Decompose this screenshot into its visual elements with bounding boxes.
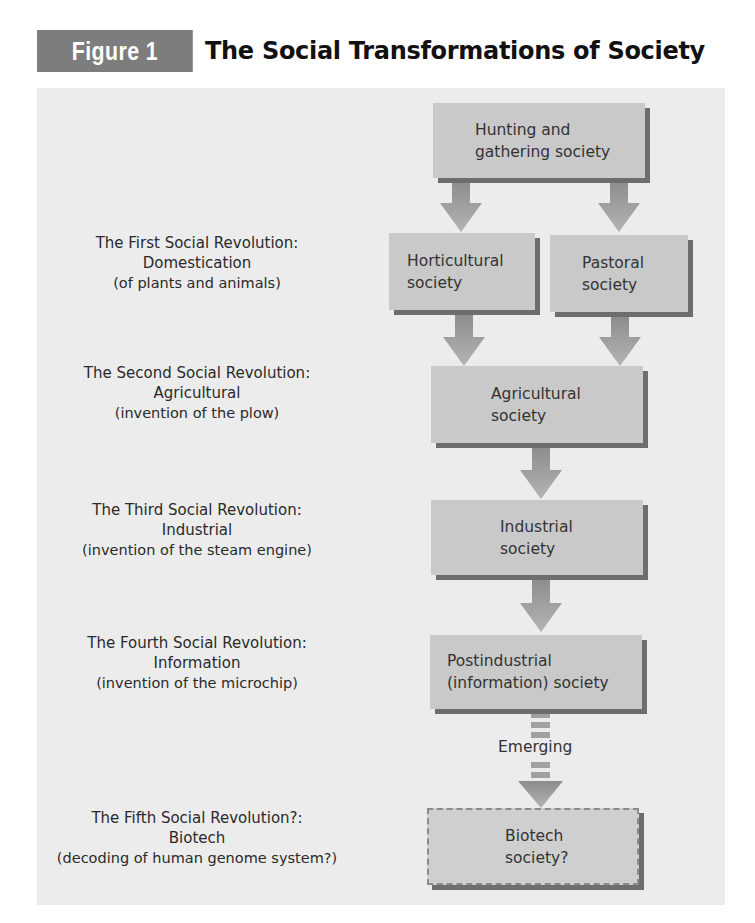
- box-line: Industrial: [500, 516, 643, 538]
- agricultural-society-box: Agricultural society: [431, 366, 643, 443]
- dashed-arrow-icon: [518, 712, 563, 808]
- box-line: society?: [505, 847, 637, 869]
- box-line: (information) society: [447, 672, 642, 694]
- box-line: society: [407, 272, 535, 294]
- arrow-down-icon: [598, 180, 640, 232]
- box-line: Postindustrial: [447, 650, 642, 672]
- box-line: Pastoral: [582, 252, 688, 274]
- arrow-down-icon: [520, 446, 562, 499]
- arrow-down-icon: [599, 315, 641, 366]
- box-line: gathering society: [475, 141, 645, 163]
- postindustrial-society-box: Postindustrial (information) society: [430, 635, 642, 709]
- arrow-down-icon: [443, 313, 485, 366]
- box-line: society: [491, 405, 643, 427]
- box-line: society: [582, 274, 688, 296]
- arrow-down-icon: [520, 578, 562, 632]
- pastoral-society-box: Pastoral society: [550, 235, 688, 312]
- box-line: Hunting and: [475, 119, 645, 141]
- box-line: Horticultural: [407, 250, 535, 272]
- box-line: Agricultural: [491, 383, 643, 405]
- horticultural-society-box: Horticultural society: [389, 233, 535, 310]
- arrow-down-icon: [440, 180, 482, 232]
- industrial-society-box: Industrial society: [431, 500, 643, 575]
- box-line: society: [500, 538, 643, 560]
- biotech-society-box: Biotech society?: [427, 808, 639, 885]
- box-line: Biotech: [505, 825, 637, 847]
- hunting-gathering-society-box: Hunting and gathering society: [433, 103, 645, 178]
- emerging-label: Emerging: [496, 738, 574, 756]
